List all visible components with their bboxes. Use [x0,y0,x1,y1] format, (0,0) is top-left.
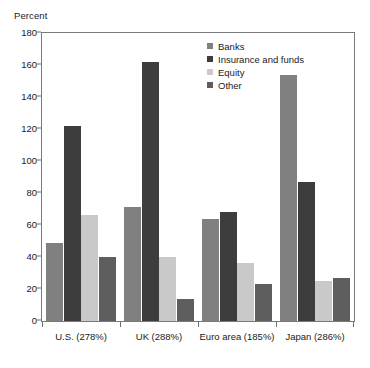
bar [202,219,219,321]
bar [159,257,176,321]
x-axis-tick-mark [120,322,121,327]
y-axis-tick-labels: 020406080100120140160180 [0,32,37,322]
y-axis-tick-label: 20 [3,283,37,294]
x-axis-category-labels: U.S. (278%)UK (288%)Euro area (185%)Japa… [42,331,354,347]
y-axis-unit-label: Percent [14,10,47,21]
y-axis-tick-label: 140 [3,91,37,102]
bar [99,257,116,321]
legend-item-label: Equity [218,67,244,78]
bar [46,243,63,321]
bar [142,62,159,321]
bar [81,215,98,321]
legend-item: Other [207,79,304,91]
legend-swatch-icon [207,56,213,62]
legend-item-label: Banks [218,41,244,52]
bar [298,182,315,321]
y-axis-tick-label: 100 [3,155,37,166]
bar-group [42,33,120,321]
bar-group [120,33,198,321]
x-axis-tick-marks [42,322,354,328]
bar [220,212,237,321]
x-axis-category-label: U.S. (278%) [55,331,107,342]
bar [333,278,350,321]
bars-container [42,33,354,321]
y-axis-tick-label: 160 [3,59,37,70]
bar [315,281,332,321]
x-axis-tick-mark [353,322,354,327]
y-axis-tick-label: 0 [3,315,37,326]
y-axis-tick-label: 120 [3,123,37,134]
legend-swatch-icon [207,82,213,88]
y-axis-tick-label: 80 [3,187,37,198]
bar [64,126,81,321]
bar [237,263,254,321]
chart-legend: BanksInsurance and fundsEquityOther [207,40,304,92]
x-axis-tick-mark [42,322,43,327]
x-axis-tick-mark [276,322,277,327]
x-axis-category-label: Euro area (185%) [200,331,275,342]
legend-item-label: Insurance and funds [218,54,304,65]
x-axis-category-label: Japan (286%) [285,331,344,342]
x-axis-category-label: UK (288%) [136,331,182,342]
legend-item: Insurance and funds [207,53,304,65]
bar [177,299,194,321]
legend-swatch-icon [207,69,213,75]
bar [280,75,297,321]
bar [124,207,141,321]
y-axis-tick-label: 180 [3,27,37,38]
legend-item: Equity [207,66,304,78]
legend-swatch-icon [207,43,213,49]
bar-chart: Percent 020406080100120140160180 U.S. (2… [0,0,370,368]
y-axis-tick-label: 60 [3,219,37,230]
bar [255,284,272,321]
legend-item: Banks [207,40,304,52]
y-axis-tick-label: 40 [3,251,37,262]
x-axis-tick-mark [198,322,199,327]
legend-item-label: Other [218,80,242,91]
